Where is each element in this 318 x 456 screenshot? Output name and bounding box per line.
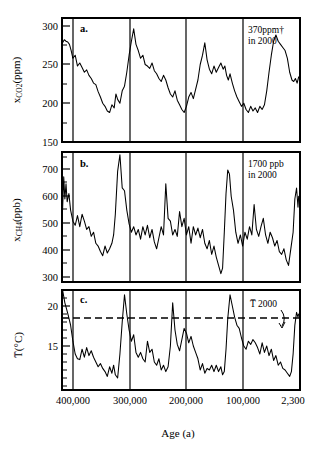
xtick-400000: 400,000: [56, 395, 90, 406]
co2-gridlines: [73, 18, 243, 142]
temp-y-ticks: [62, 298, 70, 386]
co2-panel-letter: a.: [80, 23, 88, 34]
ch4-panel-letter: b.: [80, 158, 89, 169]
x-axis-title: Age (a): [161, 427, 195, 440]
xtick-100000: 100,000: [226, 395, 260, 406]
temp-annotation-arrowhead: [279, 322, 285, 328]
x-axis: 400,000 300,000 200,000 100,000 2,300 Ag…: [56, 395, 305, 440]
xtick-2300: 2,300: [281, 395, 305, 406]
co2-ytick-150: 150: [42, 137, 58, 148]
co2-ytick-250: 250: [42, 59, 58, 70]
temp-ytick-15: 15: [48, 341, 59, 352]
ch4-ytick-400: 400: [42, 245, 58, 256]
temp-panel-letter: c.: [80, 294, 88, 305]
co2-axis-title-sub: CO: [15, 87, 24, 98]
ch4-axis-title: xCH4(ppb): [10, 198, 24, 242]
co2-axis-title: xCO2(ppm): [10, 56, 24, 103]
ch4-ytick-700: 700: [42, 164, 58, 175]
xtick-300000: 300,000: [113, 395, 147, 406]
ice-core-figure: 150 200 250 300 xCO2(ppm) a. 370ppm† in …: [0, 0, 318, 456]
svg-text:xCO2(ppm): xCO2(ppm): [10, 56, 24, 103]
ch4-ytick-500: 500: [42, 218, 58, 229]
xtick-200000: 200,000: [169, 395, 203, 406]
co2-ytick-200: 200: [42, 98, 58, 109]
co2-annotation-line1: 370ppm†: [248, 25, 284, 35]
co2-axis-title-unit: (ppm): [10, 56, 23, 83]
temp-axis-title: T̅(°C): [12, 332, 25, 358]
svg-text:xCH4(ppb): xCH4(ppb): [10, 198, 24, 242]
panel-ch4: 300 400 500 600 700 xCH4(ppb) b. 1700 pp…: [10, 152, 300, 283]
co2-ytick-300: 300: [42, 21, 58, 32]
svg-text:T̅(°C): T̅(°C): [12, 332, 25, 358]
ch4-annotation-line1: 1700 ppb: [248, 159, 284, 169]
ch4-ytick-300: 300: [42, 272, 58, 283]
ch4-axis-title-sub: CH: [15, 225, 24, 236]
ch4-axis-title-unit: (ppb): [10, 198, 23, 222]
temp-gridlines: [73, 290, 243, 390]
temp-annotation-label: T̅ 2000: [250, 299, 277, 309]
temp-axis-title-unit: (°C): [12, 332, 25, 351]
ch4-annotation-line2: in 2000: [248, 170, 277, 180]
figure-container: 150 200 250 300 xCO2(ppm) a. 370ppm† in …: [0, 0, 318, 456]
panel-co2: 150 200 250 300 xCO2(ppm) a. 370ppm† in …: [10, 18, 300, 148]
temp-ytick-20: 20: [48, 301, 59, 312]
panel-temperature: 15 20 T̅(°C) c. T̅ 2000: [12, 290, 300, 390]
ch4-y-ticks: [62, 157, 70, 277]
ch4-ytick-600: 600: [42, 191, 58, 202]
